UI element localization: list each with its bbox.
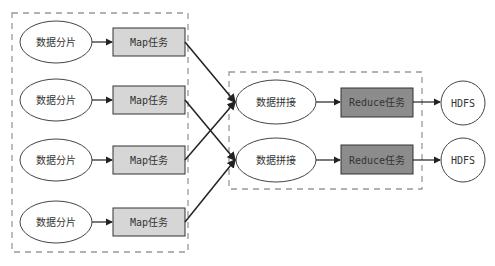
reduce-row-2: 数据拼接 Reduce任务 HDFS xyxy=(236,138,485,182)
map-task-label: Map任务 xyxy=(130,216,168,228)
data-split-label: 数据分片 xyxy=(36,216,76,228)
reduce-task-label: Reduce任务 xyxy=(349,154,405,166)
data-split-label: 数据分片 xyxy=(36,36,76,48)
map-row-4: 数据分片 Map任务 xyxy=(20,201,185,243)
reduce-task-label: Reduce任务 xyxy=(349,96,405,108)
hdfs-label: HDFS xyxy=(451,98,475,109)
data-merge-label: 数据拼接 xyxy=(256,154,296,166)
hdfs-label: HDFS xyxy=(451,155,475,166)
data-merge-label: 数据拼接 xyxy=(256,96,296,108)
map-row-2: 数据分片 Map任务 xyxy=(20,79,185,121)
map-task-label: Map任务 xyxy=(130,94,168,106)
map-task-label: Map任务 xyxy=(130,36,168,48)
shuffle-connectors xyxy=(185,42,235,222)
map-row-3: 数据分片 Map任务 xyxy=(20,139,185,181)
map-row-1: 数据分片 Map任务 xyxy=(20,21,185,63)
data-split-label: 数据分片 xyxy=(36,154,76,166)
map-task-label: Map任务 xyxy=(130,154,168,166)
data-split-label: 数据分片 xyxy=(36,94,76,106)
reduce-row-1: 数据拼接 Reduce任务 HDFS xyxy=(236,80,485,125)
mapreduce-diagram: 数据分片 Map任务 数据分片 Map任务 数据分片 Map任务 数据分片 Ma… xyxy=(0,0,495,266)
